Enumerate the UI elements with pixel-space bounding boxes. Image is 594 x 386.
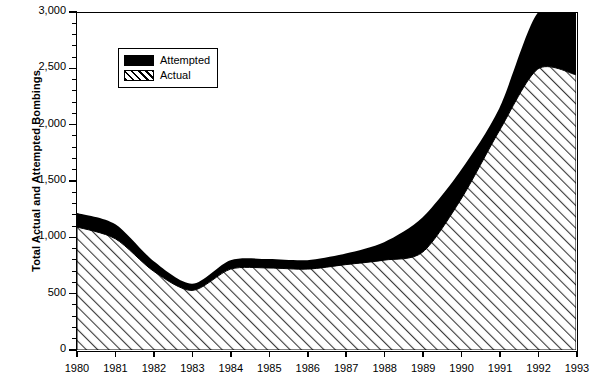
chart-figure: Total Actual and Attempted Bombings 0500… [0, 0, 594, 386]
y-tick-label: 0 [60, 342, 66, 354]
x-tick-label: 1980 [55, 362, 99, 374]
x-tick-label: 1992 [517, 362, 561, 374]
legend-item-attempted: Attempted [124, 53, 210, 68]
x-tick-label: 1982 [132, 362, 176, 374]
y-tick-label: 1,000 [38, 229, 66, 241]
y-tick-label: 3,000 [38, 4, 66, 16]
legend-swatch-actual-icon [124, 70, 154, 81]
chart-legend: Attempted Actual [118, 48, 218, 88]
y-tick-label: 2,500 [38, 60, 66, 72]
legend-swatch-attempted-icon [124, 55, 154, 66]
y-axis-title: Total Actual and Attempted Bombings [30, 31, 42, 311]
x-tick-label: 1988 [363, 362, 407, 374]
x-tick-label: 1989 [401, 362, 445, 374]
y-tick-label: 1,500 [38, 173, 66, 185]
x-tick-label: 1983 [170, 362, 214, 374]
x-tick-label: 1986 [286, 362, 330, 374]
legend-label-attempted: Attempted [160, 55, 210, 66]
x-tick-label: 1981 [93, 362, 137, 374]
x-tick-label: 1991 [478, 362, 522, 374]
y-tick-label: 2,000 [38, 117, 66, 129]
x-tick-label: 1990 [440, 362, 484, 374]
x-tick-label: 1985 [247, 362, 291, 374]
legend-item-actual: Actual [124, 68, 210, 83]
x-tick-label: 1993 [555, 362, 594, 374]
x-tick-label: 1984 [209, 362, 253, 374]
y-tick-label: 500 [48, 286, 66, 298]
legend-label-actual: Actual [160, 70, 191, 81]
x-tick-label: 1987 [324, 362, 368, 374]
